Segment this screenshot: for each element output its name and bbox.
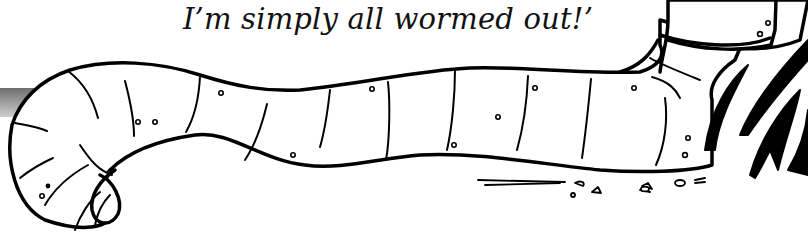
worm-illustration	[0, 0, 808, 240]
ground-debris	[478, 178, 705, 197]
